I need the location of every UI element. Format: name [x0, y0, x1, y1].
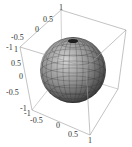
svg-text:1: 1 — [14, 45, 18, 54]
svg-text:1: 1 — [59, 3, 63, 12]
svg-text:-0.5: -0.5 — [11, 33, 24, 42]
svg-text:0.5: 0.5 — [11, 59, 21, 68]
sphere-surface — [40, 37, 106, 103]
svg-text:-0.5: -0.5 — [6, 88, 19, 97]
svg-text:-0.5: -0.5 — [30, 116, 43, 125]
svg-text:0: 0 — [35, 25, 39, 34]
svg-text:0: 0 — [19, 72, 23, 81]
bottom-axis-ticks: -1 -0.5 0 0.5 1 — [24, 109, 92, 145]
svg-text:1: 1 — [88, 136, 92, 145]
sphere-3d-plot: -1 -0.5 0 0.5 1 1 0.5 0 -0.5 -1 -1 -0.5 … — [0, 0, 132, 147]
svg-text:-1: -1 — [6, 43, 13, 52]
svg-text:0.5: 0.5 — [68, 130, 78, 139]
left-axis-ticks: 1 0.5 0 -0.5 -1 — [6, 45, 27, 113]
svg-text:0.5: 0.5 — [43, 15, 53, 24]
svg-text:0: 0 — [56, 121, 60, 130]
